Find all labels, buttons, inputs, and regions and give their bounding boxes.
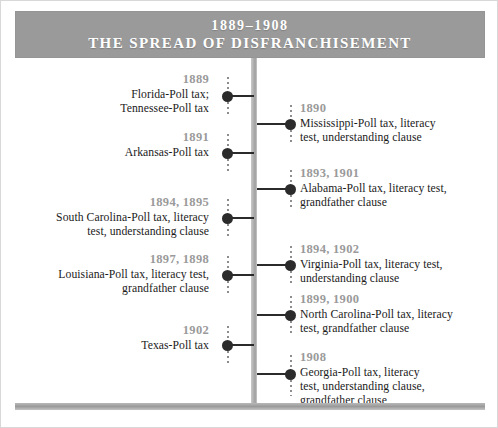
timeline-dot bbox=[222, 213, 233, 224]
entry-year: 1894, 1902 bbox=[300, 242, 490, 257]
dotted-guide bbox=[290, 296, 292, 309]
dotted-guide bbox=[290, 170, 292, 183]
timeline-dot bbox=[222, 340, 233, 351]
timeline-entry-left-1889: 1889 Florida-Poll tax; Tennessee-Poll ta… bbox=[26, 72, 209, 116]
entry-description-line: Tennessee-Poll tax bbox=[26, 102, 209, 116]
entry-year: 1890 bbox=[300, 101, 490, 116]
header-title: THE SPREAD OF DISFRANCHISEMENT bbox=[88, 34, 412, 53]
dotted-guide bbox=[290, 271, 292, 285]
entry-description-line: grandfather clause bbox=[300, 196, 490, 210]
entry-description-line: Mississippi-Poll tax, literacy bbox=[300, 117, 490, 131]
timeline-dot bbox=[285, 184, 296, 195]
dotted-guide bbox=[227, 199, 229, 212]
entry-year: 1899, 1900 bbox=[300, 292, 490, 307]
entry-description-line: Louisiana-Poll tax, literacy test, bbox=[14, 268, 209, 282]
entry-description-line: test, grandfather clause bbox=[300, 322, 490, 336]
entry-year: 1908 bbox=[300, 350, 490, 365]
entry-description-line: Virginia-Poll tax, literacy test, bbox=[300, 258, 490, 272]
dotted-guide bbox=[290, 246, 292, 259]
timeline-dot bbox=[285, 369, 296, 380]
timeline-dot bbox=[222, 148, 233, 159]
connector-line bbox=[257, 373, 287, 375]
timeline-spine bbox=[251, 58, 257, 403]
timeline-entry-right-1908: 1908 Georgia-Poll tax, literacy test, un… bbox=[300, 350, 490, 408]
entry-description-line: understanding clause bbox=[300, 272, 490, 286]
timeline-entry-right-1890: 1890 Mississippi-Poll tax, literacy test… bbox=[300, 101, 490, 145]
entry-description-line: test, understanding clause bbox=[300, 131, 490, 145]
timeline-entry-left-1897-1898: 1897, 1898 Louisiana-Poll tax, literacy … bbox=[14, 252, 209, 296]
entry-year: 1897, 1898 bbox=[14, 252, 209, 267]
entry-description-line: Georgia-Poll tax, literacy bbox=[300, 366, 490, 380]
connector-line bbox=[257, 123, 287, 125]
entry-year: 1902 bbox=[26, 323, 209, 338]
connector-line bbox=[257, 264, 287, 266]
timeline-dot bbox=[285, 260, 296, 271]
connector-line bbox=[257, 314, 287, 316]
dotted-guide bbox=[290, 195, 292, 209]
dotted-guide bbox=[227, 326, 229, 338]
bottom-rule bbox=[15, 403, 485, 410]
dotted-guide bbox=[227, 224, 229, 238]
timeline-entry-right-1899-1900: 1899, 1900 North Carolina-Poll tax, lite… bbox=[300, 292, 490, 336]
entry-year: 1894, 1895 bbox=[14, 195, 209, 210]
header-date-range: 1889–1908 bbox=[211, 17, 288, 34]
timeline-entry-right-1893-1901: 1893, 1901 Alabama-Poll tax, literacy te… bbox=[300, 166, 490, 210]
timeline-dot bbox=[222, 270, 233, 281]
entry-description-line: North Carolina-Poll tax, literacy bbox=[300, 308, 490, 322]
dotted-guide bbox=[290, 380, 292, 396]
dotted-guide bbox=[227, 351, 229, 363]
entry-year: 1889 bbox=[26, 72, 209, 87]
entry-description-line: test, understanding clause, bbox=[300, 380, 490, 394]
entry-description-line: Alabama-Poll tax, literacy test, bbox=[300, 182, 490, 196]
entry-year: 1891 bbox=[26, 130, 209, 145]
disfranchisement-timeline-infographic: 1889–1908 THE SPREAD OF DISFRANCHISEMENT… bbox=[0, 0, 498, 428]
dotted-guide bbox=[227, 159, 229, 171]
timeline-entry-right-1894-1902: 1894, 1902 Virginia-Poll tax, literacy t… bbox=[300, 242, 490, 286]
dotted-guide bbox=[290, 105, 292, 118]
entry-description-line: Arkansas-Poll tax bbox=[26, 146, 209, 160]
entry-description-line: Texas-Poll tax bbox=[26, 339, 209, 353]
entry-description-line: test, understanding clause bbox=[14, 225, 209, 239]
timeline-entry-left-1894-1895: 1894, 1895 South Carolina-Poll tax, lite… bbox=[14, 195, 209, 239]
timeline-dot bbox=[285, 310, 296, 321]
timeline-dot bbox=[285, 119, 296, 130]
connector-line bbox=[257, 188, 287, 190]
timeline-dot bbox=[222, 91, 233, 102]
dotted-guide bbox=[227, 281, 229, 295]
entry-description-line: South Carolina-Poll tax, literacy bbox=[14, 211, 209, 225]
dotted-guide bbox=[290, 321, 292, 335]
dotted-guide bbox=[227, 102, 229, 116]
dotted-guide bbox=[227, 134, 229, 147]
entry-year: 1893, 1901 bbox=[300, 166, 490, 181]
dotted-guide bbox=[290, 355, 292, 368]
timeline-entry-left-1902: 1902 Texas-Poll tax bbox=[26, 323, 209, 353]
dotted-guide bbox=[227, 77, 229, 90]
dotted-guide bbox=[227, 256, 229, 269]
entry-description-line: Florida-Poll tax; bbox=[26, 88, 209, 102]
timeline-entry-left-1891: 1891 Arkansas-Poll tax bbox=[26, 130, 209, 160]
header-banner: 1889–1908 THE SPREAD OF DISFRANCHISEMENT bbox=[15, 11, 485, 58]
dotted-guide bbox=[290, 130, 292, 144]
entry-description-line: grandfather clause bbox=[14, 282, 209, 296]
